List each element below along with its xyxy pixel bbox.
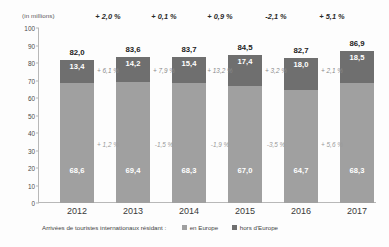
growth-en-europe-2013-2014: -1,5 % — [150, 141, 178, 148]
growth-hors-europe-2012-2013: + 6,1 % — [94, 67, 122, 74]
legend-swatch-icon — [232, 225, 237, 230]
stacked-bar[interactable]: 15,4 68,3 — [172, 57, 206, 204]
growth-en-europe-2016-2017: + 5,6 % — [318, 141, 346, 148]
x-axis-label-2016: 2016 — [273, 206, 329, 216]
chart-page: (in millions) 100 90 80 70 60 50 — [0, 0, 389, 247]
growth-total-2016-2017: + 5,1 % — [304, 12, 360, 21]
growth-hors-europe-2013-2014: + 7,9 % — [150, 67, 178, 74]
stacked-bar[interactable]: 18,0 64,7 — [284, 58, 318, 203]
bar-total-label: 82,0 — [60, 48, 94, 57]
bar-segment-label: 68,3 — [340, 166, 374, 175]
x-axis-label-2012: 2012 — [49, 206, 105, 216]
x-axis-label-2017: 2017 — [329, 206, 385, 216]
legend-label-hors-europe: hors d'Europe — [240, 224, 278, 231]
bar-segment-hors-europe[interactable]: 13,4 — [60, 60, 94, 83]
y-axis-unit-caption: (in millions) — [22, 12, 55, 19]
y-tick-label: 70 — [28, 77, 38, 84]
y-tick-label: 40 — [28, 130, 38, 137]
bar-total-label: 84,5 — [228, 43, 262, 52]
x-axis-label-2014: 2014 — [161, 206, 217, 216]
stacked-bar[interactable]: 14,2 69,4 — [116, 57, 150, 203]
y-tick-label: 100 — [24, 25, 38, 32]
bar-total-label: 83,7 — [172, 45, 206, 54]
y-tick-label: 20 — [28, 165, 38, 172]
y-tick-row: 0 — [38, 203, 376, 204]
plot-area: 100 90 80 70 60 50 40 30 — [38, 28, 376, 203]
y-tick-row: 90 — [38, 46, 376, 47]
bar-total-label: 83,6 — [116, 45, 150, 54]
bar-segment-label: 17,4 — [228, 57, 262, 66]
growth-en-europe-2012-2013: + 1,2 % — [94, 141, 122, 148]
growth-en-europe-2014-2015: -1,9 % — [206, 141, 234, 148]
bar-segment-label: 68,6 — [60, 166, 94, 175]
bar-segment-label: 64,7 — [284, 166, 318, 175]
legend-label-en-europe: en Europe — [190, 224, 219, 231]
y-tick-label: 0 — [31, 200, 38, 207]
bar-segment-label: 69,4 — [116, 166, 150, 175]
legend-swatch-icon — [182, 225, 187, 230]
legend-caption: Arrivées de touristes internationaux rés… — [42, 224, 166, 231]
y-tick-label: 80 — [28, 60, 38, 67]
bar-segment-label: 68,3 — [172, 166, 206, 175]
growth-hors-europe-2014-2015: + 13,2 % — [204, 67, 236, 74]
legend-entry-en-europe[interactable]: en Europe — [182, 224, 218, 231]
legend: Arrivées de touristes internationaux rés… — [42, 224, 292, 231]
growth-total-2012-2013: + 2,0 % — [80, 12, 136, 21]
bar-segment-en-europe[interactable]: 68,6 — [60, 83, 94, 203]
growth-total-2013-2014: + 0,1 % — [136, 12, 192, 21]
y-tick-label: 30 — [28, 147, 38, 154]
growth-total-2015-2016: -2,1 % — [248, 12, 304, 21]
growth-en-europe-2015-2016: -3,5 % — [262, 141, 290, 148]
bar-segment-hors-europe[interactable]: 18,0 — [284, 58, 318, 90]
y-tick-label: 10 — [28, 182, 38, 189]
growth-hors-europe-2015-2016: + 3,2 % — [262, 67, 290, 74]
bar-segment-label: 13,4 — [60, 62, 94, 71]
bar-segment-label: 67,0 — [228, 166, 262, 175]
bar-total-label: 82,7 — [284, 46, 318, 55]
stacked-bar[interactable]: 17,4 67,0 — [228, 55, 262, 203]
x-axis-label-2015: 2015 — [217, 206, 273, 216]
legend-entry-hors-europe[interactable]: hors d'Europe — [232, 224, 278, 231]
growth-hors-europe-2016-2017: + 2,1 % — [318, 67, 346, 74]
y-tick-row: 100 — [38, 28, 376, 29]
growth-total-2014-2015: + 0,9 % — [192, 12, 248, 21]
bar-total-label: 86,9 — [340, 39, 374, 48]
y-tick-label: 50 — [28, 112, 38, 119]
y-tick-label: 90 — [28, 42, 38, 49]
x-axis-label-2013: 2013 — [105, 206, 161, 216]
stacked-bar[interactable]: 13,4 68,6 — [60, 60, 94, 204]
y-tick-label: 60 — [28, 95, 38, 102]
bar-segment-label: 18,5 — [340, 53, 374, 62]
